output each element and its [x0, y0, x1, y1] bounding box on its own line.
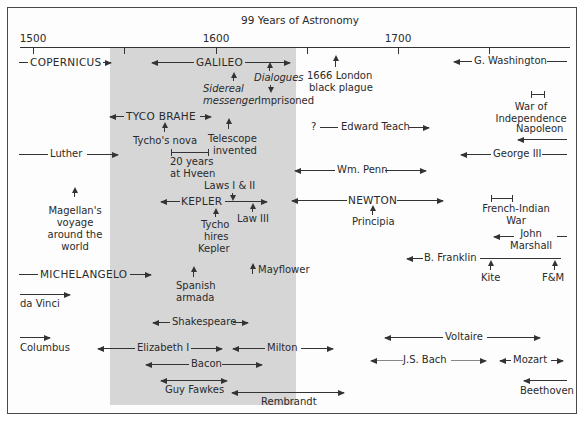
- george-arrow-left: [461, 154, 491, 155]
- french-indian-war-span: [491, 198, 513, 199]
- arrow-right-icon: [338, 390, 345, 396]
- copernicus-line-left: [19, 62, 28, 63]
- year-label-1500: 1500: [20, 32, 47, 44]
- davinci-label: da Vinci: [20, 298, 60, 310]
- elizabeth-label: Elizabeth I: [137, 342, 189, 354]
- columbus-arrow-right: [20, 337, 50, 338]
- kepler-arrow-left: [161, 201, 180, 202]
- arrow-left-icon: [523, 378, 530, 384]
- chart-title: 99 Years of Astronomy: [241, 14, 359, 26]
- arrow-right-icon: [327, 346, 334, 352]
- bacon-arrow-right: [222, 364, 262, 365]
- war-independence-span: [531, 94, 545, 95]
- newton-arrow-right: [397, 200, 443, 201]
- voltaire-arrow-right: [487, 337, 540, 338]
- arrow-right-icon: [64, 292, 71, 298]
- fawkes-span-arrow: [161, 380, 227, 381]
- kite-event-arrow: [490, 262, 491, 270]
- armada-label-2: armada: [176, 292, 214, 304]
- kepler-arrow-right: [225, 201, 267, 202]
- arrow-right-icon: [105, 60, 112, 66]
- michelangelo-arrow-right: [130, 274, 151, 275]
- tick-1650: [307, 47, 308, 54]
- franklin-line-right: [480, 258, 561, 259]
- arrow-left-icon: [160, 378, 167, 384]
- arrow-right-icon: [480, 358, 487, 364]
- imprisoned-label: Imprisoned: [258, 95, 314, 107]
- arrow-right-icon: [221, 378, 228, 384]
- washington-line-right: [547, 61, 567, 62]
- arrow-right-icon: [242, 320, 249, 326]
- tycho-arrow-left: [110, 116, 124, 117]
- tick-1500: [33, 47, 34, 54]
- teach-label: Edward Teach: [341, 121, 410, 133]
- luther-line-left: [19, 154, 48, 155]
- magellan-label-3: around the: [42, 229, 108, 241]
- telescope-label-2: invented: [213, 145, 257, 157]
- sidereal-label-2: messenger: [203, 95, 258, 107]
- teach-unknown-start: ?: [311, 121, 316, 133]
- voltaire-label: Voltaire: [445, 331, 483, 343]
- plague-event-arrow: [335, 57, 336, 67]
- arrow-left-icon: [291, 198, 298, 204]
- arrow-right-icon: [44, 335, 51, 341]
- marshall-arrow-left: [494, 236, 514, 237]
- arrow-right-icon: [112, 152, 119, 158]
- teach-line-left: [320, 127, 338, 128]
- bach-label: J.S. Bach: [403, 354, 447, 366]
- rembrandt-arrow: [232, 392, 344, 393]
- arrow-left-icon: [499, 358, 506, 364]
- arrow-left-icon: [453, 59, 460, 65]
- shakespeare-arrow-right: [233, 322, 248, 323]
- napoleon-arrow-left: [518, 139, 567, 140]
- year-label-1700: 1700: [385, 32, 412, 44]
- washington-arrow-left: [454, 61, 472, 62]
- year-label-1600: 1600: [203, 32, 230, 44]
- kite-label: Kite: [481, 272, 500, 284]
- plague-label-2: black plague: [309, 82, 373, 94]
- arrow-right-icon: [420, 168, 427, 174]
- fawkes-label: Guy Fawkes: [165, 384, 224, 396]
- michelangelo-line-left: [19, 274, 38, 275]
- tycho-hires-event-arrow: [215, 210, 216, 217]
- columbus-label: Columbus: [20, 342, 70, 354]
- penn-arrow-left: [295, 170, 335, 171]
- arrow-left-icon: [109, 114, 116, 120]
- arrow-right-icon: [534, 335, 541, 341]
- arrow-left-icon: [160, 199, 167, 205]
- bacon-label: Bacon: [191, 358, 222, 370]
- arrow-right-icon: [205, 114, 212, 120]
- sidereal-event-arrow: [233, 74, 234, 81]
- tycho-hires-label-1: Tycho: [201, 219, 229, 231]
- luther-arrow-right: [87, 154, 118, 155]
- rembrandt-label: Rembrandt: [261, 396, 317, 408]
- bach-arrow-right: [451, 360, 486, 361]
- george-line-right: [542, 154, 567, 155]
- tick-1750: [489, 47, 490, 54]
- galileo-label: GALILEO: [196, 56, 243, 68]
- arrow-left-icon: [370, 358, 377, 364]
- arrow-right-icon: [284, 60, 291, 66]
- shakespeare-arrow-left: [153, 322, 170, 323]
- marshall-label-2: Marshall: [510, 240, 552, 252]
- tycho-nova-event-arrow: [164, 124, 165, 132]
- magellan-label-2: voyage: [42, 217, 108, 229]
- mayflower-label: Mayflower: [258, 264, 310, 276]
- telescope-label-1: Telescope: [208, 133, 257, 145]
- tycho-arrow-right: [200, 116, 211, 117]
- plague-label-1: 1666 London: [307, 70, 372, 82]
- fm-event-arrow: [554, 262, 555, 270]
- copernicus-arrow: [103, 62, 111, 63]
- telescope-event-arrow: [228, 120, 229, 129]
- arrow-left-icon: [406, 256, 413, 262]
- arrow-left-icon: [517, 137, 524, 143]
- arrow-right-icon: [145, 272, 152, 278]
- fm-label: F&M: [542, 272, 564, 284]
- tick-1600: [216, 47, 217, 54]
- tycho-label: TYCO BRAHE: [126, 110, 196, 122]
- davinci-arrow-right: [20, 294, 70, 295]
- beethoven-arrow-left: [524, 380, 567, 381]
- arrow-left-icon: [97, 346, 104, 352]
- arrow-left-icon: [145, 362, 152, 368]
- tick-1550: [124, 47, 125, 54]
